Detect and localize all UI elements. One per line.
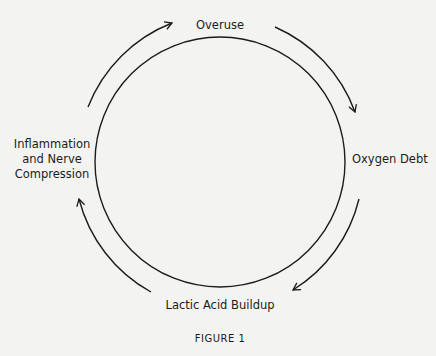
node-inflammation-line2: and Nerve <box>12 152 92 167</box>
arrow-oxygen-debt-to-lactic <box>293 199 359 290</box>
figure-caption: FIGURE 1 <box>195 331 246 346</box>
node-oxygen-debt: Oxygen Debt <box>352 152 428 167</box>
node-lactic-acid-buildup: Lactic Acid Buildup <box>165 298 274 313</box>
central-circle <box>95 37 345 287</box>
node-inflammation-line1: Inflammation <box>12 137 92 152</box>
arrow-inflammation-to-overuse <box>88 23 172 107</box>
arrow-lactic-to-inflammation <box>79 199 151 292</box>
node-inflammation: Inflammation and Nerve Compression <box>12 137 92 182</box>
arrow-overuse-to-oxygen-debt <box>275 27 355 112</box>
node-overuse: Overuse <box>196 18 244 33</box>
node-inflammation-line3: Compression <box>12 167 92 182</box>
